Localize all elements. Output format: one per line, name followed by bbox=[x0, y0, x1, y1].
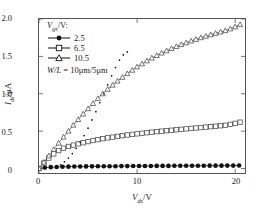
legend-title: Vgs/V: bbox=[47, 21, 108, 32]
y-tick-label: 2.0 bbox=[0, 14, 12, 23]
wl-annotation: W/L = 10μm/5μm bbox=[47, 66, 108, 75]
y-tick-label: 0.5 bbox=[0, 128, 12, 137]
legend-item-10_5: 10.5 bbox=[47, 53, 108, 63]
x-tick-label: 10 bbox=[122, 177, 152, 186]
open-triangle-icon bbox=[47, 53, 71, 63]
legend-item-2_5: 2.5 bbox=[47, 33, 108, 43]
legend-item-6_5: 6.5 bbox=[47, 43, 108, 53]
legend-label: 10.5 bbox=[74, 54, 89, 63]
x-tick-label: 20 bbox=[221, 177, 251, 186]
legend: Vgs/V: 2.5 6.5 10.5 W/L = 10μm/5μm bbox=[47, 21, 108, 76]
filled-circle-icon bbox=[47, 33, 71, 43]
legend-label: 6.5 bbox=[74, 44, 85, 53]
open-square-icon bbox=[47, 43, 71, 53]
x-axis-title: Vds/V bbox=[38, 192, 246, 204]
legend-label: 2.5 bbox=[74, 34, 85, 43]
x-tick-label: 0 bbox=[23, 177, 53, 186]
chart-figure: 2.0 1.5 1.0 0.5 0 0 10 20 Ids/μA Vds/V V… bbox=[0, 0, 261, 218]
y-tick-label: 0 bbox=[0, 166, 12, 175]
y-axis-title: Ids/μA bbox=[3, 64, 15, 124]
y-tick-label: 1.5 bbox=[0, 52, 12, 61]
